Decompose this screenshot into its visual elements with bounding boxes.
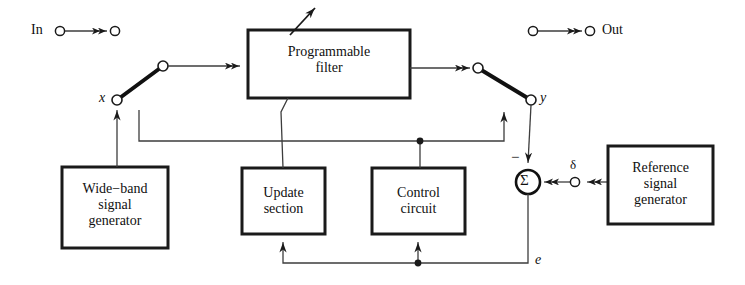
diagram-canvas: In Out Programmable filter Wide−band sig… (0, 0, 745, 285)
control-circuit-block (372, 168, 465, 234)
y-to-sum-line (528, 105, 531, 163)
input-switch-contact-node[interactable] (158, 61, 168, 71)
update-section-block (242, 168, 325, 234)
programmable-filter-block (248, 30, 410, 98)
delta-node (570, 177, 579, 186)
diagram-svg (0, 0, 745, 285)
junction-dot-control-feed (417, 138, 424, 145)
input-switch-pivot-node[interactable] (112, 95, 122, 105)
node-label-e: e (535, 252, 541, 268)
summing-junction-minus-sign: − (511, 149, 519, 166)
node-label-delta: δ (570, 157, 576, 173)
in-terminal-node-2 (110, 26, 119, 35)
reference-signal-generator-block (608, 146, 713, 224)
input-switch-group[interactable] (112, 61, 168, 105)
node-label-x: x (99, 90, 105, 106)
summing-junction-symbol: Σ (520, 172, 529, 189)
out-terminal-node (528, 26, 537, 35)
out-terminal-node-2 (585, 26, 594, 35)
output-switch-pivot-node[interactable] (526, 95, 536, 105)
y-feedback-rail (139, 110, 504, 141)
output-terminal-group (528, 26, 594, 35)
input-terminal-group (55, 26, 119, 35)
in-terminal-node (55, 26, 64, 35)
in-terminal-label: In (31, 22, 43, 38)
output-switch-blade[interactable] (478, 68, 531, 100)
input-switch-blade[interactable] (117, 66, 163, 100)
filter-update-link (281, 98, 288, 168)
output-switch-contact-node[interactable] (473, 63, 483, 73)
out-terminal-label: Out (602, 22, 623, 38)
output-switch-group[interactable] (473, 63, 536, 105)
wide-band-signal-generator-block (62, 167, 168, 248)
node-label-y: y (540, 90, 546, 106)
junction-dot-error-feed (415, 260, 422, 267)
